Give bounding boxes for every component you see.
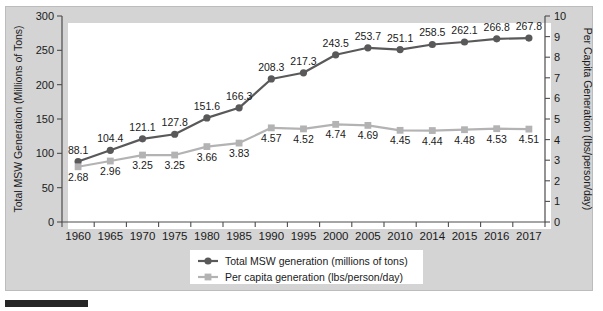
data-point (332, 121, 339, 128)
left-axis-tick-label: 0 (48, 216, 54, 228)
data-point (493, 35, 500, 42)
data-point-label: 4.45 (390, 134, 411, 146)
footer-black-bar (5, 300, 88, 307)
data-point (107, 158, 114, 165)
data-point-label: 4.48 (454, 134, 475, 146)
data-point-label: 267.8 (516, 20, 542, 32)
data-point-label: 166.3 (226, 90, 252, 102)
x-axis-tick-label: 2017 (516, 230, 542, 242)
left-axis-tick-label: 200 (36, 79, 54, 91)
data-point-label: 2.68 (68, 171, 89, 183)
data-point-label: 253.7 (355, 30, 381, 42)
chart-canvas: 0501001502002503000123456789101960196519… (0, 0, 603, 311)
left-axis-tick-label: 50 (42, 182, 54, 194)
data-point-label: 127.8 (162, 116, 188, 128)
chart-legend: Total MSW generation (millions of tons)P… (190, 250, 423, 284)
data-point (461, 38, 468, 45)
chart-figure: 0501001502002503000123456789101960196519… (0, 0, 603, 311)
data-point (525, 35, 532, 42)
right-axis-tick-label: 8 (554, 51, 560, 63)
data-point-label: 4.51 (519, 133, 540, 145)
data-point-label: 3.83 (229, 147, 250, 159)
data-point (429, 41, 436, 48)
right-axis-tick-label: 1 (554, 195, 560, 207)
data-point-label: 251.1 (387, 32, 413, 44)
data-point-label: 208.3 (258, 61, 284, 73)
left-axis-tick-label: 300 (36, 10, 54, 22)
data-point (268, 75, 275, 82)
x-axis-tick-label: 2010 (387, 230, 413, 242)
right-axis-tick-label: 3 (554, 154, 560, 166)
x-axis-tick-label: 1975 (162, 230, 188, 242)
data-point-label: 258.5 (419, 26, 445, 38)
data-point (300, 69, 307, 76)
legend-marker-square-icon (205, 274, 212, 281)
left-axis-tick-label: 150 (36, 113, 54, 125)
data-point-label: 4.74 (325, 128, 346, 140)
x-axis-tick-label: 1970 (130, 230, 156, 242)
right-axis-tick-label: 5 (554, 113, 560, 125)
data-point-label: 4.57 (261, 132, 282, 144)
data-point-label: 4.69 (358, 129, 379, 141)
x-axis-tick-label: 1960 (65, 230, 91, 242)
data-point-label: 151.6 (194, 100, 220, 112)
axis-lines (62, 16, 545, 222)
data-point-label: 2.96 (100, 165, 121, 177)
x-axis-tick-label: 2014 (420, 230, 446, 242)
data-point (461, 126, 468, 133)
data-point (75, 163, 82, 170)
left-axis-tick-label: 250 (36, 44, 54, 56)
legend-marker-circle-icon (204, 257, 211, 264)
right-axis-tick-label: 4 (554, 134, 560, 146)
right-axis-tick-label: 0 (554, 216, 560, 228)
data-point (526, 126, 533, 133)
x-axis-tick-label: 2000 (323, 230, 349, 242)
right-axis-tick-label: 9 (554, 31, 560, 43)
x-axis-tick-label: 2016 (484, 230, 510, 242)
data-point (236, 140, 243, 147)
right-axis-title: Per Capita Generation (lbs/person/day) (582, 28, 594, 211)
left-axis-tick-label: 100 (36, 147, 54, 159)
data-point-label: 4.52 (293, 133, 314, 145)
data-point-label: 217.3 (290, 55, 316, 67)
data-point (300, 125, 307, 132)
data-point (107, 147, 114, 154)
data-point (397, 46, 404, 53)
data-point (493, 125, 500, 132)
right-axis-tick-label: 7 (554, 72, 560, 84)
data-point-label: 3.66 (197, 151, 218, 163)
x-axis-tick-label: 1985 (226, 230, 252, 242)
data-point (139, 152, 146, 159)
right-axis-tick-label: 6 (554, 92, 560, 104)
data-point-label: 3.25 (164, 159, 185, 171)
data-point (268, 124, 275, 131)
data-point (364, 44, 371, 51)
data-point (171, 152, 178, 159)
legend-entry-label: Total MSW generation (millions of tons) (225, 255, 408, 267)
data-point-label: 104.4 (97, 132, 123, 144)
data-point (236, 104, 243, 111)
x-axis-tick-label: 2005 (355, 230, 381, 242)
data-point-label: 121.1 (129, 121, 155, 133)
right-axis-tick-label: 2 (554, 175, 560, 187)
data-point (365, 122, 372, 129)
data-point (397, 127, 404, 134)
data-point-label: 262.1 (451, 24, 477, 36)
right-axis-tick-label: 10 (554, 10, 566, 22)
data-point-label: 4.53 (486, 133, 507, 145)
legend-entry-label: Per capita generation (lbs/person/day) (225, 271, 403, 283)
data-point-label: 3.25 (132, 159, 153, 171)
left-axis-title: Total MSW Generation (Millions of Tons) (12, 25, 24, 212)
x-axis-tick-label: 1995 (291, 230, 317, 242)
data-point-label: 88.1 (68, 144, 89, 156)
data-point-label: 266.8 (484, 21, 510, 33)
data-point (203, 114, 210, 121)
data-point (429, 127, 436, 134)
x-axis-tick-label: 1965 (98, 230, 124, 242)
data-point (204, 143, 211, 150)
x-axis-tick-label: 1990 (259, 230, 285, 242)
x-axis-tick-label: 1980 (194, 230, 220, 242)
data-point (139, 135, 146, 142)
x-axis-tick-label: 2015 (452, 230, 478, 242)
data-point-label: 4.44 (422, 135, 443, 147)
